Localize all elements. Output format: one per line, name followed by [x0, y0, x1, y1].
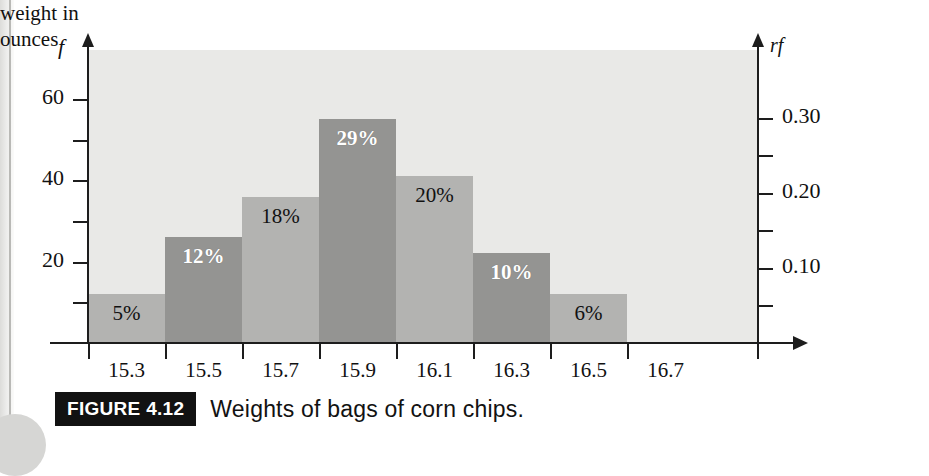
x-axis-title-line1: weight in — [0, 1, 79, 25]
x-axis-tick — [550, 344, 552, 359]
x-axis-tick — [319, 344, 321, 359]
x-axis-tick-label: 16.1 — [395, 358, 475, 383]
bar-value-label: 5% — [88, 301, 165, 326]
bar-6: 10% — [473, 253, 550, 343]
y-axis-right-title: rf — [770, 34, 783, 57]
bar-7: 6% — [550, 294, 627, 343]
x-axis-tick-label: 16.7 — [626, 358, 706, 383]
y-axis-right-tick — [758, 193, 773, 195]
x-axis-title-line2: ounces — [0, 27, 58, 51]
bar-5: 20% — [396, 176, 473, 343]
bar-value-label: 29% — [319, 126, 396, 151]
y-axis-left-tick-label: 20 — [8, 247, 64, 273]
y-axis-left-line — [87, 44, 89, 344]
bar-value-label: 12% — [165, 244, 242, 269]
figure-number-badge: FIGURE 4.12 — [55, 392, 196, 426]
y-axis-left-tick-label: 40 — [8, 165, 64, 191]
x-axis-tick — [627, 344, 629, 359]
y-axis-left-tick-label: 60 — [8, 84, 64, 110]
x-axis-tick-label: 15.9 — [318, 358, 398, 383]
figure-caption-text: Weights of bags of corn chips. — [210, 396, 524, 423]
x-axis-tick-label: 16.5 — [549, 358, 629, 383]
y-axis-left-arrow-icon — [82, 33, 94, 47]
bar-4: 29% — [319, 119, 396, 343]
bar-1: 5% — [88, 294, 165, 343]
x-axis-line — [50, 342, 795, 344]
x-axis-arrow-icon — [793, 336, 808, 350]
bar-series: 5%12%18%29%20%10%6% — [88, 50, 758, 343]
x-axis-tick-label: 15.5 — [164, 358, 244, 383]
y-axis-right-tick — [758, 268, 773, 270]
bar-value-label: 6% — [550, 301, 627, 326]
y-axis-right-tick-label: 0.30 — [782, 103, 862, 129]
bar-2: 12% — [165, 237, 242, 343]
x-axis-tick-label: 15.3 — [87, 358, 167, 383]
x-axis-tick — [757, 344, 759, 359]
x-axis-tick-label: 16.3 — [472, 358, 552, 383]
y-axis-right-arrow-icon — [752, 33, 764, 47]
y-axis-left-tick — [73, 262, 88, 264]
y-axis-left-tick — [73, 180, 88, 182]
x-axis-tick — [165, 344, 167, 359]
y-axis-right-tick-label: 0.10 — [782, 253, 862, 279]
y-axis-left-tick — [73, 221, 88, 223]
y-axis-left-tick — [73, 140, 88, 142]
y-axis-right-tick — [758, 155, 773, 157]
y-axis-right-tick — [758, 118, 773, 120]
figure-caption: FIGURE 4.12 Weights of bags of corn chip… — [55, 392, 524, 426]
y-axis-left-tick — [73, 302, 88, 304]
y-axis-left-title: f — [58, 34, 64, 60]
y-axis-left-tick — [73, 99, 88, 101]
x-axis-tick — [396, 344, 398, 359]
bar-value-label: 18% — [242, 204, 319, 229]
y-axis-right-tick — [758, 230, 773, 232]
bar-value-label: 20% — [396, 183, 473, 208]
x-axis-tick-label: 15.7 — [241, 358, 321, 383]
x-axis-tick — [88, 344, 90, 359]
x-axis-tick — [242, 344, 244, 359]
x-axis-tick — [473, 344, 475, 359]
y-axis-right-tick-label: 0.20 — [782, 178, 862, 204]
y-axis-right-tick — [758, 305, 773, 307]
bar-3: 18% — [242, 197, 319, 344]
bar-value-label: 10% — [473, 260, 550, 285]
